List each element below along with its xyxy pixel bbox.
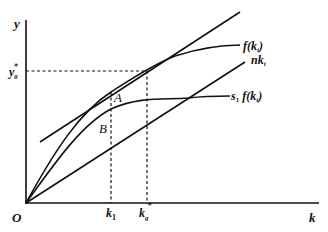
kg-label: kg* <box>139 201 153 222</box>
solow-diagram: y k O yg* k1 kg* A B f(kt) nkt s1 f(kt) <box>0 0 328 232</box>
production-function-label: f(kt) <box>243 39 263 54</box>
savings-curve <box>26 96 230 203</box>
origin-label: O <box>12 210 22 225</box>
y-golden-label: yg* <box>7 62 19 80</box>
savings-curve-label: s1 f(kt) <box>230 89 262 104</box>
diagram-canvas: y k O yg* k1 kg* A B f(kt) nkt s1 f(kt) <box>0 0 328 232</box>
point-a-label: A <box>113 90 122 105</box>
k1-label: k1 <box>106 206 116 222</box>
y-axis-label: y <box>12 16 20 31</box>
x-axis-label: k <box>309 210 316 225</box>
nk-label: nkt <box>251 53 267 68</box>
point-b-label: B <box>99 121 107 136</box>
production-function-curve <box>26 45 240 203</box>
nk-line <box>26 62 245 203</box>
tangent-line <box>40 12 240 142</box>
